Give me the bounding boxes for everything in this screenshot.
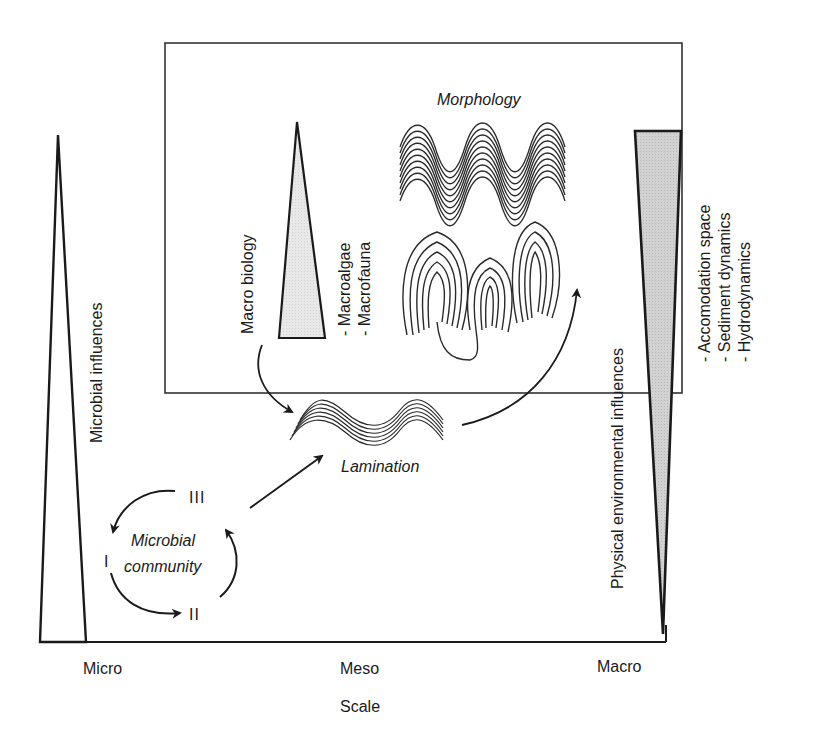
community-to-lamination-arrow bbox=[250, 456, 322, 508]
list-item-macrofauna: - Macrofauna bbox=[355, 242, 375, 336]
lamination-illustration bbox=[290, 400, 443, 445]
list-item-macroalgae: - Macroalgae bbox=[335, 242, 355, 336]
stage-i-label: I bbox=[104, 553, 109, 571]
stage-ii-label: II bbox=[189, 606, 200, 624]
physical-environment-list: - Accomodation space - Sediment dynamics… bbox=[695, 205, 755, 362]
microbial-community-label-line2: community bbox=[124, 558, 201, 576]
scale-tick-macro: Macro bbox=[597, 658, 641, 676]
macro-biology-to-lamination-arrow bbox=[258, 345, 292, 412]
stage-iii-label: III bbox=[189, 489, 205, 507]
macro-biology-label: Macro biology bbox=[239, 234, 257, 334]
diagram-canvas bbox=[0, 0, 835, 738]
microbial-community-label-line1: Microbial bbox=[131, 532, 195, 550]
physical-environmental-influences-label: Physical environmental influences bbox=[609, 348, 627, 589]
scale-tick-micro: Micro bbox=[83, 660, 122, 678]
morphology-ridges-illustration bbox=[400, 123, 565, 226]
morphology-columns-illustration bbox=[403, 222, 559, 360]
microbial-influence-wedge bbox=[40, 135, 86, 642]
lamination-label: Lamination bbox=[341, 458, 419, 476]
scale-tick-meso: Meso bbox=[340, 660, 379, 678]
macro-scale-box bbox=[165, 43, 682, 393]
macro-biology-wedge bbox=[279, 122, 325, 338]
lamination-to-morphology-arrow bbox=[462, 290, 577, 425]
microbial-influences-label: Microbial influences bbox=[88, 302, 106, 443]
list-item-sediment-dynamics: - Sediment dynamics bbox=[715, 205, 735, 362]
cycle-arrow-i-to-ii bbox=[111, 573, 180, 614]
macro-biology-list: - Macroalgae - Macrofauna bbox=[335, 242, 375, 336]
cycle-arrow-ii-to-iii bbox=[220, 530, 237, 597]
morphology-label: Morphology bbox=[437, 91, 521, 109]
physical-environment-wedge bbox=[635, 131, 681, 634]
list-item-accomodation-space: - Accomodation space bbox=[695, 205, 715, 362]
scale-axis-title: Scale bbox=[340, 698, 380, 716]
cycle-arrow-iii-to-i bbox=[113, 491, 175, 532]
list-item-hydrodynamics: - Hydrodynamics bbox=[735, 205, 755, 362]
